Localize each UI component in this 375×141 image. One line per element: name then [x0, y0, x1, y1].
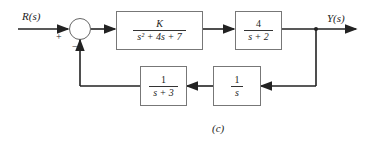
- caption: (c): [212, 122, 224, 134]
- output-label: Y(s): [327, 12, 345, 24]
- block-g2-numerator: 4: [252, 18, 265, 30]
- plus-sign: +: [56, 31, 62, 42]
- input-label: R(s): [22, 10, 40, 22]
- block-h1-numerator: 1: [157, 74, 170, 86]
- summing-junction: [70, 19, 91, 40]
- block-g1-numerator: K: [152, 18, 167, 30]
- block-g1-denominator: s² + 4s + 7: [133, 30, 185, 43]
- block-h2-denominator: s: [231, 86, 243, 99]
- block-g2-denominator: s + 2: [244, 30, 273, 43]
- block-h1-denominator: s + 3: [149, 86, 178, 99]
- block-g2: 4 s + 2: [235, 11, 282, 50]
- block-h2-numerator: 1: [231, 74, 244, 86]
- minus-sign: −: [72, 41, 78, 52]
- block-h1: 1 s + 3: [140, 66, 187, 106]
- block-h2: 1 s: [213, 66, 261, 106]
- block-g1: K s² + 4s + 7: [116, 11, 203, 50]
